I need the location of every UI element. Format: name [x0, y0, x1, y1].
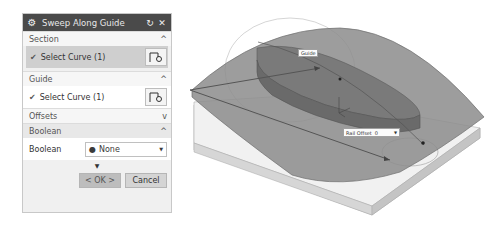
guide-group-header[interactable]: Guide ^ [23, 71, 171, 86]
boolean-group-header[interactable]: Boolean ^ [23, 123, 171, 138]
checkmark-icon: ✔ [29, 93, 36, 102]
guide-callout-label: Guide [301, 50, 316, 56]
chevron-down-icon[interactable]: ▼ [394, 130, 397, 135]
rail-offset-field[interactable]: Rail Offset 0 ▼ [343, 128, 400, 137]
curve-rule-button[interactable] [145, 48, 167, 66]
reset-icon[interactable]: ↻ [145, 18, 155, 28]
gear-icon: ⚙ [27, 18, 37, 28]
rail-offset-value[interactable]: 0 [375, 130, 378, 136]
offsets-group-label: Offsets [29, 112, 162, 121]
dialog-titlebar[interactable]: ⚙ Sweep Along Guide ↻ ✕ [23, 14, 171, 31]
boolean-group-label: Boolean [29, 127, 160, 136]
boolean-field-label: Boolean [29, 145, 85, 154]
chevron-down-icon[interactable]: v [162, 112, 167, 121]
curve-rule-icon [148, 91, 164, 103]
curve-rule-button[interactable] [145, 88, 167, 106]
boolean-select[interactable]: ● None ▼ [85, 142, 167, 157]
cancel-button[interactable]: Cancel [125, 173, 167, 188]
expand-arrow-icon: ▼ [95, 162, 100, 169]
offsets-group-header[interactable]: Offsets v [23, 108, 171, 123]
rail-offset-label: Rail Offset [346, 130, 372, 136]
chevron-up-icon[interactable]: ^ [160, 75, 167, 84]
boolean-row: Boolean ● None ▼ [23, 138, 171, 160]
guide-callout: Guide [298, 49, 318, 57]
section-group-label: Section [29, 35, 160, 44]
dialog-buttons: < OK > Cancel [23, 170, 171, 191]
boolean-select-value: None [99, 145, 159, 154]
curve-rule-icon [148, 51, 164, 63]
sweep-along-guide-dialog: ⚙ Sweep Along Guide ↻ ✕ Section ^ ✔ Sele… [22, 13, 172, 213]
chevron-down-icon: ▼ [159, 146, 163, 152]
chevron-up-icon[interactable]: ^ [160, 35, 167, 44]
guide-select-curve-label: Select Curve (1) [40, 93, 145, 102]
checkmark-icon: ✔ [30, 53, 37, 62]
ok-button[interactable]: < OK > [79, 173, 121, 188]
section-select-curve-row[interactable]: ✔ Select Curve (1) [26, 46, 168, 68]
section-group-header[interactable]: Section ^ [23, 31, 171, 46]
section-select-curve-label: Select Curve (1) [41, 53, 145, 62]
chevron-up-icon[interactable]: ^ [160, 127, 167, 136]
close-icon[interactable]: ✕ [157, 18, 167, 28]
more-options-toggle[interactable]: ▼ [23, 160, 171, 170]
guide-select-curve-row[interactable]: ✔ Select Curve (1) [23, 86, 171, 108]
dialog-title: Sweep Along Guide [42, 18, 143, 28]
boolean-none-icon: ● [89, 145, 96, 154]
guide-group-label: Guide [29, 75, 160, 84]
